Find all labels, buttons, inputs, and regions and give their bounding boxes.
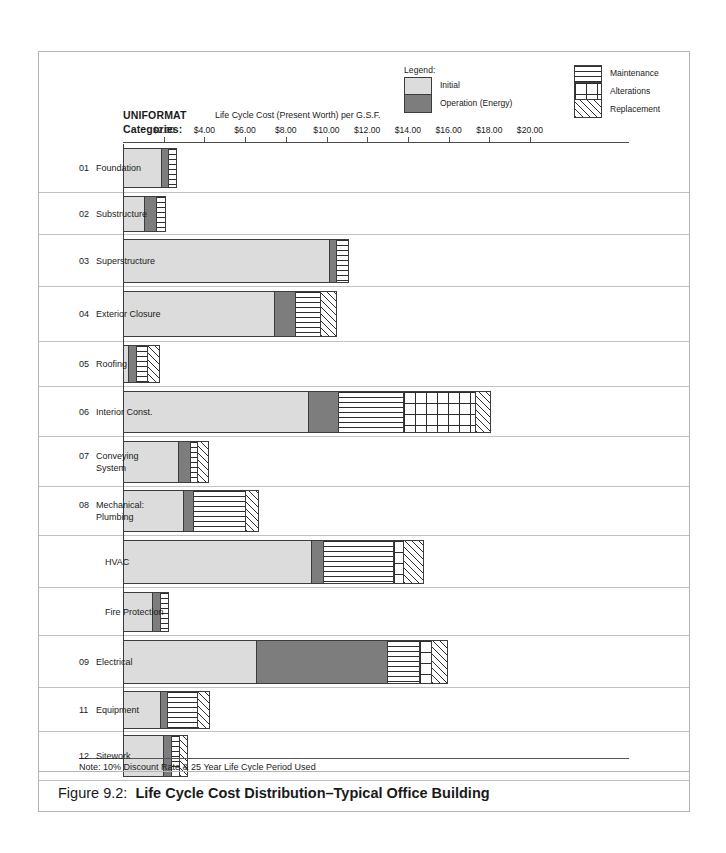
row-label-05: 05Roofing — [79, 358, 127, 370]
x-axis-tick-label: $8.00 — [275, 125, 297, 135]
x-axis-tick-labels: $2.00$4.00$6.00$8.00$10.00$12.00$14.00$1… — [39, 125, 689, 137]
stacked-bar — [123, 540, 424, 584]
stacked-bar — [123, 239, 349, 283]
row-label-hvac: HVAC — [105, 556, 129, 568]
x-axis-line — [123, 142, 629, 143]
chart-plate: Legend: Initial Operation (Energy) Maint… — [39, 52, 689, 771]
bar-segment-initial — [123, 540, 312, 584]
x-axis-tick-label: $6.00 — [234, 125, 256, 135]
chart-row: 02Substructure — [39, 193, 689, 235]
row-label-text: Equipment — [96, 704, 139, 716]
row-label-number: 05 — [79, 358, 96, 370]
bar-segment-maintenance — [296, 291, 321, 337]
legend-title: Legend: — [404, 65, 435, 75]
row-label-text: Superstructure — [96, 255, 155, 267]
row-label-09: 09Electrical — [79, 656, 133, 668]
row-label-fire-protection: Fire Protection — [105, 606, 164, 618]
row-label-number: 12 — [79, 750, 96, 762]
row-label-04: 04Exterior Closure — [79, 308, 161, 320]
row-label-08: 08Mechanical: Plumbing — [79, 499, 144, 523]
legend-swatch-operation — [405, 95, 431, 112]
row-label-number: 07 — [79, 450, 96, 462]
row-label-03: 03Superstructure — [79, 255, 155, 267]
legend-swatch-stack-left — [404, 77, 432, 113]
legend-swatch-initial — [405, 78, 431, 95]
row-label-number: 04 — [79, 308, 96, 320]
chart-row: Fire Protection — [39, 588, 689, 636]
stacked-bar — [123, 640, 448, 684]
stacked-bar — [123, 391, 491, 433]
bar-segment-operation — [161, 691, 168, 729]
legend-swatch-replacement — [575, 100, 601, 117]
x-axis-title: Life Cycle Cost (Present Worth) per G.S.… — [215, 110, 381, 120]
figure-caption-band: Figure 9.2: Life Cycle Cost Distribution… — [39, 771, 689, 813]
figure-frame: Legend: Initial Operation (Energy) Maint… — [38, 51, 690, 812]
chart-row: 09Electrical — [39, 636, 689, 688]
bar-segment-operation — [179, 441, 191, 483]
legend-label-replacement: Replacement — [610, 104, 660, 114]
row-label-text: Conveying System — [96, 450, 139, 474]
x-axis-tick-label: $2.00 — [153, 125, 175, 135]
x-axis-tick-label: $16.00 — [435, 125, 461, 135]
bar-segment-operation — [330, 239, 337, 283]
row-label-11: 11Equipment — [79, 704, 139, 716]
bar-segment-operation — [275, 291, 296, 337]
legend-swatch-alterations — [575, 83, 601, 100]
legend-label-alterations: Alterations — [610, 86, 650, 96]
bar-segment-operation — [257, 640, 387, 684]
bar-segment-maintenance — [339, 391, 404, 433]
row-label-number: 02 — [79, 208, 96, 220]
bar-segment-replacement — [476, 391, 491, 433]
legend-label-operation: Operation (Energy) — [440, 98, 512, 108]
legend-swatch-maintenance — [575, 66, 601, 83]
bar-segment-maintenance — [168, 691, 199, 729]
bar-segment-initial — [123, 640, 257, 684]
bar-segment-operation — [145, 196, 156, 232]
x-axis-tick-label: $18.00 — [476, 125, 502, 135]
row-label-text: Sitework — [96, 750, 131, 762]
chart-row: 01Foundation — [39, 144, 689, 193]
chart-row: HVAC — [39, 536, 689, 588]
bar-segment-maintenance — [337, 239, 349, 283]
chart-row: 04Exterior Closure — [39, 287, 689, 342]
chart-row: 03Superstructure — [39, 235, 689, 287]
legend-label-initial: Initial — [440, 80, 460, 90]
bar-segment-operation — [162, 148, 169, 188]
x-axis-tick-label: $14.00 — [395, 125, 421, 135]
bar-segment-maintenance — [324, 540, 393, 584]
bar-segment-maintenance — [191, 441, 198, 483]
bar-segment-maintenance — [169, 148, 177, 188]
bar-segment-operation — [184, 490, 194, 532]
bar-segment-replacement — [432, 640, 447, 684]
row-label-number: 01 — [79, 162, 96, 174]
note-divider — [79, 758, 629, 759]
bar-segment-operation — [309, 391, 339, 433]
chart-row: 08Mechanical: Plumbing — [39, 487, 689, 536]
bar-segment-replacement — [148, 345, 159, 383]
row-label-text: Mechanical: Plumbing — [96, 499, 144, 523]
chart-row: 06Interior Const. — [39, 387, 689, 437]
chart-legend: Legend: Initial Operation (Energy) Maint… — [404, 65, 674, 121]
row-label-number: 03 — [79, 255, 96, 267]
chart-row: 07Conveying System — [39, 437, 689, 487]
bar-segment-maintenance — [137, 345, 148, 383]
bar-segment-maintenance — [388, 640, 421, 684]
legend-label-maintenance: Maintenance — [610, 68, 659, 78]
figure-title: Life Cycle Cost Distribution–Typical Off… — [135, 785, 489, 801]
figure-caption: Figure 9.2: Life Cycle Cost Distribution… — [39, 785, 490, 801]
x-axis-tick-label: $12.00 — [354, 125, 380, 135]
uniformat-heading-line1: UNIFORMAT — [123, 109, 187, 123]
bar-segment-maintenance — [157, 196, 166, 232]
row-label-number: 11 — [79, 704, 96, 716]
bar-segment-operation — [312, 540, 324, 584]
row-label-01: 01Foundation — [79, 162, 141, 174]
row-label-number: 09 — [79, 656, 96, 668]
row-label-number: 08 — [79, 499, 96, 511]
row-label-text: Roofing — [96, 358, 127, 370]
legend-swatch-stack-right — [574, 65, 602, 118]
row-label-text: Foundation — [96, 162, 141, 174]
bar-segment-replacement — [404, 540, 424, 584]
bar-segment-operation — [129, 345, 137, 383]
bar-segment-replacement — [198, 441, 209, 483]
bar-segment-maintenance — [194, 490, 246, 532]
